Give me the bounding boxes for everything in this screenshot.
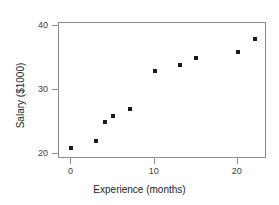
data-point	[69, 146, 73, 150]
data-point	[194, 56, 198, 60]
y-axis-tick	[52, 89, 58, 90]
data-point	[236, 50, 240, 54]
plot-area-frame	[58, 22, 266, 158]
data-point	[128, 107, 132, 111]
y-axis-tick	[52, 153, 58, 154]
data-point	[178, 63, 182, 67]
data-point	[111, 114, 115, 118]
scatter-plot-figure: 20304001020 Salary ($1000) Experience (m…	[0, 0, 279, 205]
x-axis-tick	[70, 158, 71, 164]
y-axis-tick-label: 20	[22, 148, 48, 158]
x-axis-tick	[154, 158, 155, 164]
y-axis-tick-label: 40	[22, 20, 48, 30]
data-point	[103, 120, 107, 124]
data-point	[153, 69, 157, 73]
y-axis-tick-label: 30	[22, 84, 48, 94]
y-axis-tick	[52, 25, 58, 26]
x-axis-tick-label: 0	[56, 166, 84, 176]
data-point	[253, 37, 257, 41]
y-axis-title: Salary ($1000)	[15, 28, 26, 164]
x-axis-tick-label: 10	[140, 166, 168, 176]
x-axis-title: Experience (months)	[0, 184, 279, 195]
data-point	[94, 139, 98, 143]
x-axis-tick	[237, 158, 238, 164]
x-axis-tick-label: 20	[223, 166, 251, 176]
data-points-layer	[59, 23, 265, 157]
